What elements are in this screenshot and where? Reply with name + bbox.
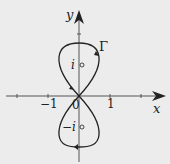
point-i: [80, 63, 84, 67]
y-axis-label: y: [65, 7, 74, 22]
tick-label-one: 1: [107, 97, 115, 111]
y-axis: [74, 10, 84, 162]
curve-label-gamma: Γ: [99, 39, 108, 54]
point-label-i: i: [71, 58, 75, 72]
x-axis: [6, 91, 166, 101]
x-axis-label: x: [153, 101, 161, 116]
arrow-lower-icon: [74, 144, 78, 150]
tick-label-origin: 0: [72, 98, 80, 112]
point-label-neg-i: −i: [62, 120, 76, 134]
point-neg-i: [80, 125, 84, 129]
tick-label-neg-one: −1: [40, 97, 58, 111]
figure-canvas: y x −1 0 1 Γ i −i: [0, 0, 170, 164]
